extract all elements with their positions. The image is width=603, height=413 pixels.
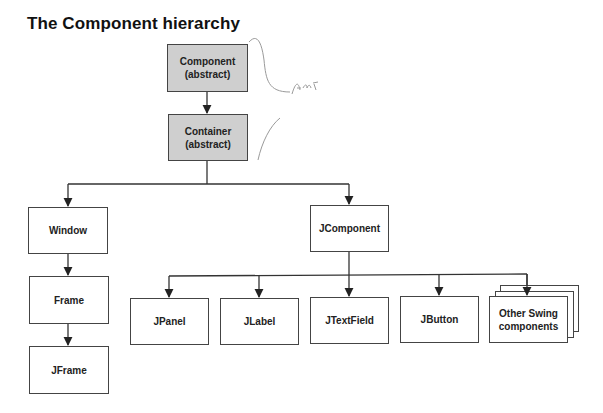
node-component: Component (abstract) — [167, 44, 248, 92]
node-container: Container (abstract) — [168, 114, 248, 161]
node-jbutton: JButton — [400, 296, 479, 343]
node-frame-label: Frame — [54, 294, 84, 307]
node-other-swing-line2: components — [499, 320, 558, 333]
node-jframe: JFrame — [29, 346, 109, 394]
node-other-swing-line1: Other Swing — [499, 307, 558, 320]
node-jpanel: JPanel — [130, 298, 209, 345]
node-window: Window — [28, 207, 108, 254]
node-jbutton-label: JButton — [421, 313, 459, 326]
node-jcomponent: JComponent — [310, 205, 389, 252]
node-jtextfield-label: JTextField — [325, 314, 374, 327]
node-jframe-label: JFrame — [51, 364, 87, 377]
node-jcomponent-label: JComponent — [319, 222, 380, 235]
node-window-label: Window — [49, 224, 87, 237]
node-jlabel-label: JLabel — [244, 315, 276, 328]
node-container-name: Container — [185, 125, 232, 138]
node-component-name: Component — [180, 55, 236, 68]
node-other-swing: Other Swing components — [489, 296, 568, 343]
node-jpanel-label: JPanel — [153, 315, 185, 328]
node-jtextfield: JTextField — [310, 297, 389, 344]
node-jlabel: JLabel — [220, 298, 299, 345]
node-component-qualifier: (abstract) — [185, 68, 231, 81]
node-container-qualifier: (abstract) — [185, 138, 231, 151]
node-frame: Frame — [29, 276, 109, 324]
handwritten-annotation — [249, 38, 318, 160]
